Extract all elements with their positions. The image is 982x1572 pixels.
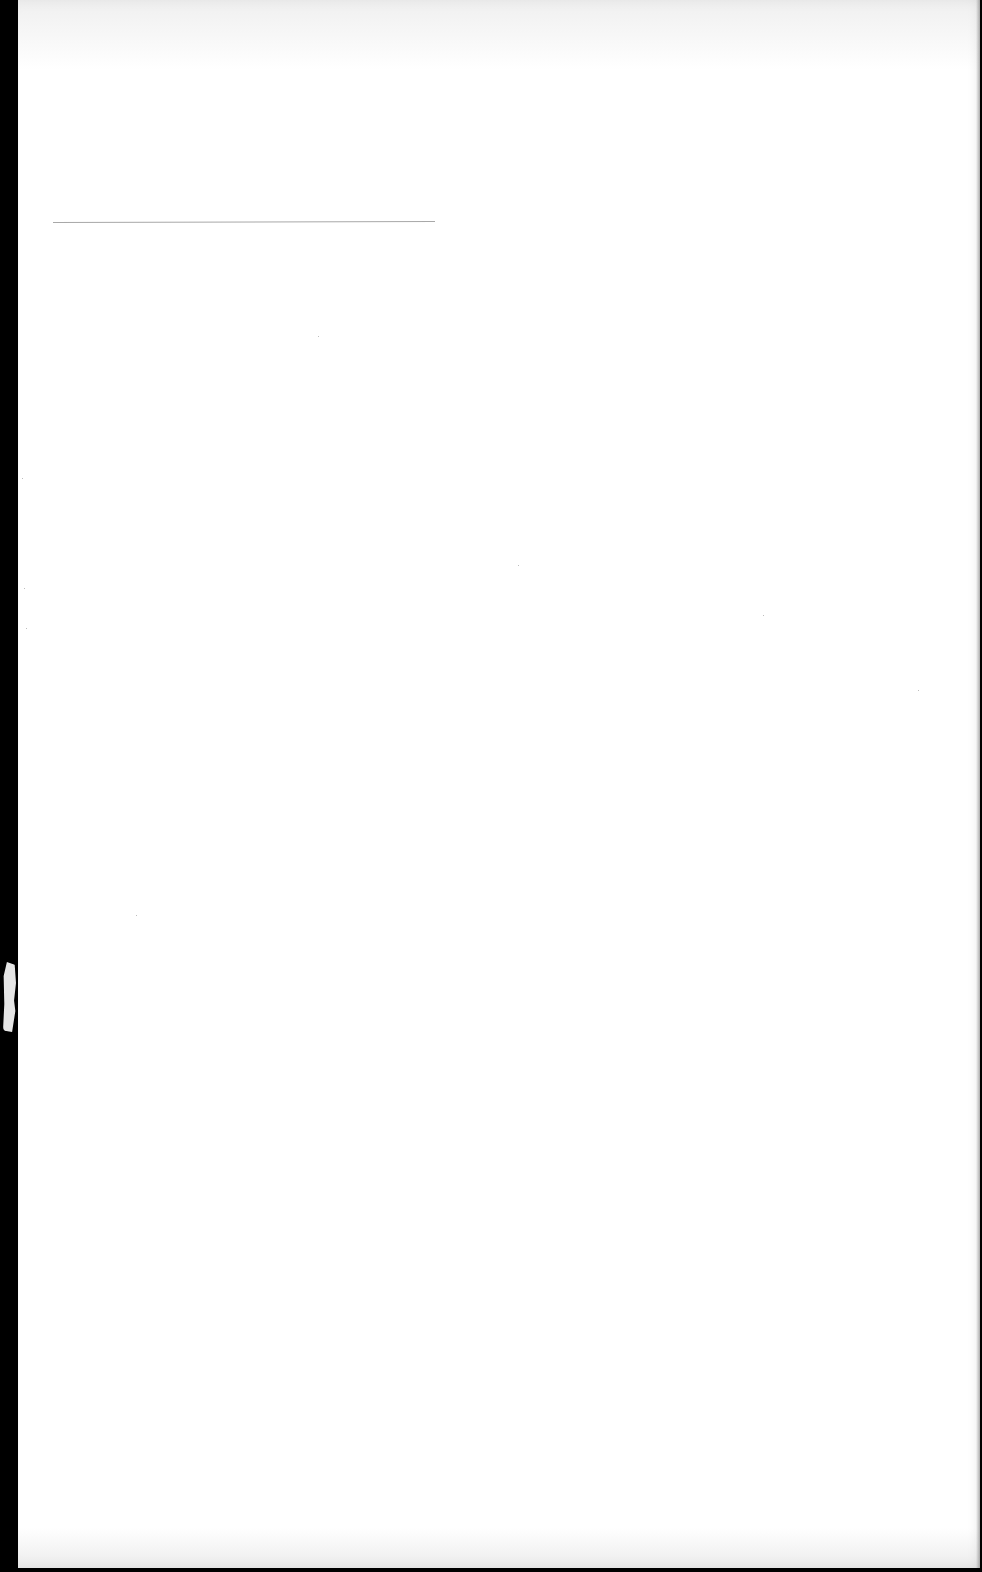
- scan-speck: [136, 915, 137, 916]
- page-right-edge: [976, 0, 980, 1568]
- scan-speck: [26, 628, 27, 629]
- scan-speck: [763, 615, 764, 616]
- scan-speck: [22, 478, 23, 479]
- scan-speck: [24, 588, 25, 589]
- document-page: [18, 0, 980, 1568]
- horizontal-rule: [53, 221, 435, 223]
- scan-frame: [0, 0, 982, 1572]
- page-bottom-shading: [18, 1528, 980, 1568]
- scan-speck: [318, 336, 319, 337]
- scan-speck: [518, 565, 519, 566]
- page-top-shading: [18, 0, 980, 70]
- scan-speck: [918, 690, 919, 691]
- torn-paper-notch: [3, 962, 16, 1032]
